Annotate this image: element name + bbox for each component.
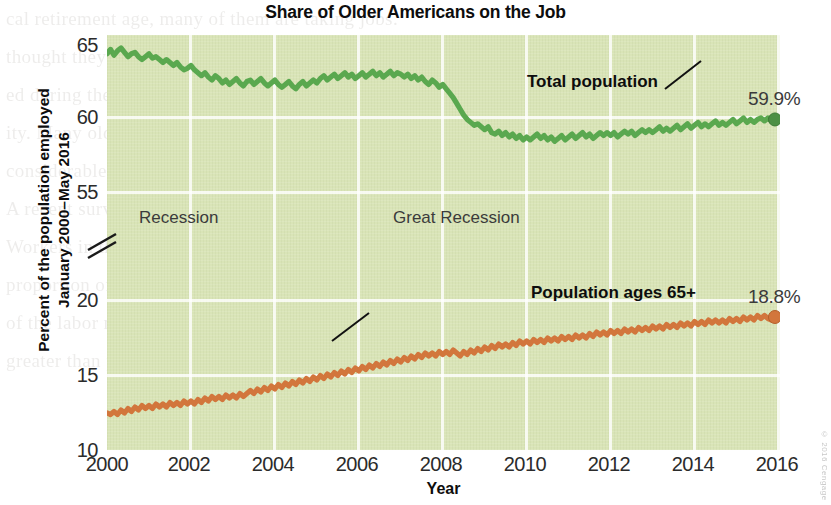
y-axis-title-line2: January 2000–May 2016 — [54, 20, 74, 420]
series-label-total-population: Total population — [527, 72, 658, 92]
x-tick-label-2006: 2006 — [317, 453, 397, 476]
x-tick-label-2014: 2014 — [653, 453, 733, 476]
x-tick-label-2016: 2016 — [737, 453, 817, 476]
x-tick-label-2008: 2008 — [401, 453, 481, 476]
endpoint-dot-total-population — [768, 113, 780, 126]
line-population-65-plus — [107, 316, 775, 415]
series-label-population-65-plus: Population ages 65+ — [531, 283, 696, 303]
x-tick-label-2010: 2010 — [485, 453, 565, 476]
plot-area — [107, 35, 780, 450]
x-tick-label-2004: 2004 — [233, 453, 313, 476]
line-total-population — [107, 48, 775, 141]
x-tick-label-2002: 2002 — [149, 453, 229, 476]
credit-line: © 2016 Cengage — [820, 430, 829, 501]
end-value-total-population: 59.9% — [748, 88, 800, 110]
annotation-great-recession: Great Recession — [393, 208, 520, 228]
x-tick-label-2012: 2012 — [569, 453, 649, 476]
endpoint-dot-population-65-plus — [768, 311, 780, 324]
x-axis-title: Year — [107, 480, 780, 498]
axis-break-icon — [86, 228, 120, 262]
chart-title: Share of Older Americans on the Job — [0, 2, 831, 23]
y-axis-title-line1: Percent of the population employed — [34, 20, 54, 420]
y-axis-title: Percent of the population employed Janua… — [34, 20, 74, 420]
chart-figure: Share of Older Americans on the Job — [0, 0, 831, 505]
end-value-population-65-plus: 18.8% — [748, 286, 800, 308]
x-tick-label-2000: 2000 — [67, 453, 147, 476]
series-lines — [107, 35, 780, 450]
annotation-recession: Recession — [139, 208, 218, 228]
